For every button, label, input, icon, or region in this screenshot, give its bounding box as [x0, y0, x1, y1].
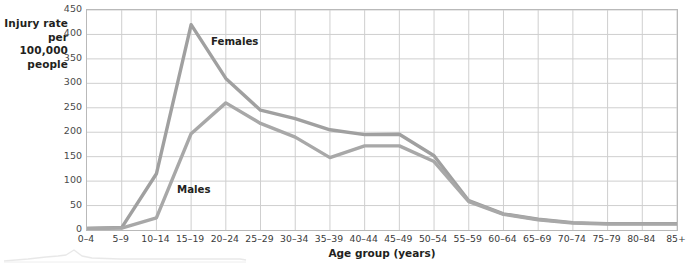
x-tick-label: 60–64	[488, 233, 516, 245]
x-tick-label: 25–29	[245, 233, 273, 245]
y-axis-tick-labels: 050100150200250300350400450	[52, 0, 82, 263]
y-tick-label: 100	[56, 175, 82, 185]
x-tick-label: 70–74	[558, 233, 586, 245]
x-tick-label: 85+	[666, 233, 686, 245]
y-tick-label: 450	[56, 4, 82, 14]
x-tick-label: 20–24	[211, 233, 239, 245]
y-tick-label: 300	[56, 77, 82, 87]
y-tick-label: 50	[56, 200, 82, 210]
x-tick-label: 45–49	[384, 233, 412, 245]
x-axis-tick-labels: 0–45–910–1415–1920–2425–2930–3435–3940–4…	[86, 233, 678, 247]
y-tick-label: 400	[56, 28, 82, 38]
x-tick-label: 10–14	[141, 233, 169, 245]
x-tick-label: 15–19	[176, 233, 204, 245]
x-tick-label: 35–39	[315, 233, 343, 245]
x-tick-label: 30–34	[280, 233, 308, 245]
artifact-shape	[0, 247, 248, 263]
series-label-females: Females	[211, 36, 258, 47]
y-tick-label: 250	[56, 102, 82, 112]
series-line-females	[87, 25, 677, 229]
horizontal-gridlines	[87, 10, 677, 206]
y-tick-label: 200	[56, 126, 82, 136]
plot-area	[86, 9, 678, 231]
x-tick-label: 0–4	[78, 233, 94, 245]
series-label-males: Males	[177, 184, 210, 195]
page-edge-artifact	[0, 247, 248, 263]
x-tick-label: 50–54	[419, 233, 447, 245]
plot-svg	[87, 10, 677, 230]
y-tick-label: 350	[56, 53, 82, 63]
series-line-males	[87, 103, 677, 229]
series-lines	[87, 25, 677, 229]
x-tick-label: 80–84	[627, 233, 655, 245]
x-tick-label: 75–79	[592, 233, 620, 245]
x-tick-label: 40–44	[349, 233, 377, 245]
x-tick-label: 65–69	[523, 233, 551, 245]
x-tick-label: 55–59	[454, 233, 482, 245]
y-tick-label: 150	[56, 151, 82, 161]
x-tick-label: 5–9	[112, 233, 128, 245]
